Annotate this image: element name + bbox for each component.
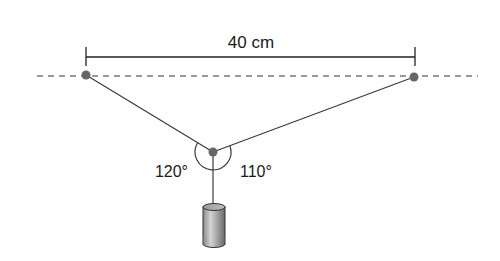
- angle-left-label: 120°: [155, 163, 188, 180]
- junction-point: [209, 148, 218, 157]
- angle-right-label: 110°: [240, 163, 272, 180]
- cylinder-weight: [203, 204, 225, 248]
- right-anchor-point: [410, 73, 419, 82]
- right-rope: [213, 77, 414, 152]
- force-diagram: 40 cm 120° 110°: [0, 0, 500, 261]
- left-anchor-point: [82, 71, 91, 80]
- left-rope: [86, 75, 213, 152]
- distance-label: 40 cm: [228, 33, 274, 52]
